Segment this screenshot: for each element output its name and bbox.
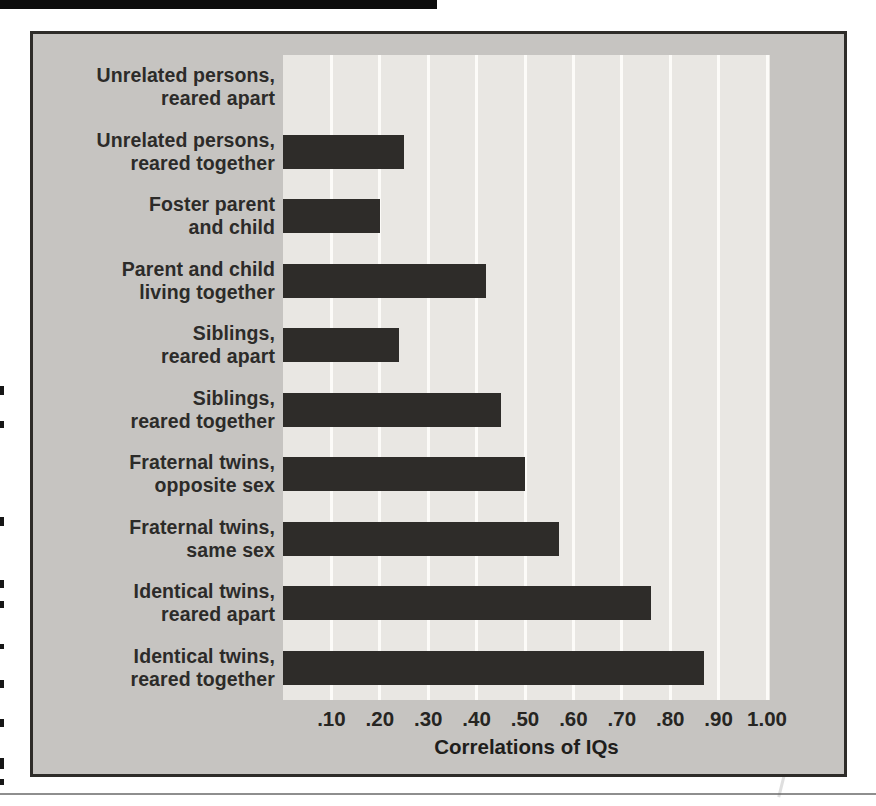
category-label-line: living together [33, 281, 275, 304]
bar-6 [283, 393, 501, 427]
category-label-line: same sex [33, 539, 275, 562]
bar-row [283, 55, 770, 120]
scan-artifact-edge-mark [0, 421, 4, 428]
bar-7 [283, 457, 525, 491]
category-label-line: Foster parent [33, 193, 275, 216]
category-label-line: reared apart [33, 345, 275, 368]
bar-row [283, 507, 770, 572]
x-tick-label: .60 [559, 707, 588, 731]
category-label-line: Identical twins, [33, 580, 275, 603]
category-label-line: Fraternal twins, [33, 451, 275, 474]
x-tick-label: .40 [462, 707, 491, 731]
bar-row [283, 313, 770, 378]
scan-artifact-top-strip [0, 0, 437, 9]
category-label-line: Unrelated persons, [33, 64, 275, 87]
scan-artifact-edge-mark [0, 779, 4, 785]
x-tick-label: .10 [317, 707, 346, 731]
plot-area [283, 55, 770, 700]
category-label: Parent and childliving together [33, 249, 275, 314]
category-label-line: Unrelated persons, [33, 129, 275, 152]
scan-artifact-edge-mark [0, 601, 4, 608]
scan-artifact-edge-mark [0, 386, 4, 395]
category-label-line: Parent and child [33, 258, 275, 281]
figure-panel: Unrelated persons,reared apartUnrelated … [30, 31, 847, 777]
bar-row [283, 636, 770, 701]
scan-artifact-edge-mark [0, 758, 4, 769]
category-label-line: reared together [33, 668, 275, 691]
x-tick-label: .30 [414, 707, 443, 731]
category-label-line: Siblings, [33, 322, 275, 345]
category-label-line: Fraternal twins, [33, 516, 275, 539]
x-tick-label: .20 [366, 707, 395, 731]
scan-artifact-edge-mark [0, 644, 4, 649]
bar-3 [283, 199, 380, 233]
bar-9 [283, 586, 651, 620]
category-label-line: reared apart [33, 87, 275, 110]
x-axis-title: Correlations of IQs [283, 735, 770, 759]
x-tick-label: .90 [704, 707, 733, 731]
category-label-line: Siblings, [33, 387, 275, 410]
bar-4 [283, 264, 486, 298]
category-label: Siblings,reared together [33, 378, 275, 443]
category-label: Siblings,reared apart [33, 313, 275, 378]
category-label-line: reared apart [33, 603, 275, 626]
scan-artifact-edge-mark [0, 680, 4, 688]
x-tick-label: .70 [608, 707, 637, 731]
bar-row [283, 442, 770, 507]
scan-artifact-edge-mark [0, 580, 4, 588]
category-label-line: reared together [33, 410, 275, 433]
bar-row [283, 249, 770, 314]
category-label: Unrelated persons,reared together [33, 120, 275, 185]
scan-artifact-bottom-line [0, 793, 876, 795]
x-tick-label: .50 [511, 707, 540, 731]
category-label-line: reared together [33, 152, 275, 175]
bar-5 [283, 328, 399, 362]
bar-2 [283, 135, 404, 169]
bar-row [283, 184, 770, 249]
scan-artifact-edge-mark [0, 719, 4, 727]
bar-10 [283, 651, 704, 685]
category-label-line: opposite sex [33, 474, 275, 497]
scan-artifact-edge-mark [0, 517, 4, 526]
category-label: Foster parentand child [33, 184, 275, 249]
bar-row [283, 571, 770, 636]
category-label: Fraternal twins,opposite sex [33, 442, 275, 507]
category-label: Unrelated persons,reared apart [33, 55, 275, 120]
x-tick-label: 1.00 [747, 707, 787, 731]
category-label: Identical twins,reared together [33, 636, 275, 701]
x-tick-label: .80 [656, 707, 685, 731]
category-label: Fraternal twins,same sex [33, 507, 275, 572]
bar-row [283, 378, 770, 443]
x-axis-ticks: .10.20.30.40.50.60.70.80.901.00 [283, 707, 770, 731]
category-label-line: Identical twins, [33, 645, 275, 668]
category-label: Identical twins,reared apart [33, 571, 275, 636]
bar-8 [283, 522, 559, 556]
category-label-line: and child [33, 216, 275, 239]
bar-row [283, 120, 770, 185]
